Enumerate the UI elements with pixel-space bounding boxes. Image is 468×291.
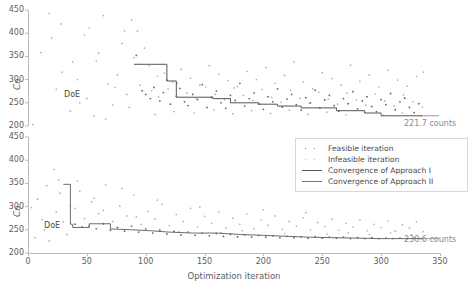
x-tick-label: 250 [312,257,332,266]
legend-marker-approach-ii-line-icon [301,177,323,186]
chart-figure: CD 200250300350400450 DoE 221.7 counts C… [0,0,468,291]
panel1-feasible-points [74,223,422,240]
x-tick-label: 50 [77,257,97,266]
legend-item-approach-i: Convergence of Approach I [301,165,461,176]
legend-label-approach-i: Convergence of Approach I [328,165,431,176]
x-tick-label: 150 [195,257,215,266]
legend-label-feasible: Feasible iteration [328,143,393,154]
x-tick-mark [146,253,147,256]
x-tick-mark [381,253,382,256]
x-axis-line [28,253,440,254]
panel0-convergence-line [134,64,422,116]
x-tick-mark [205,253,206,256]
x-axis-label: Optimization iteration [0,271,468,281]
legend-label-infeasible: Infeasible iteration [328,154,399,165]
panel0-infeasible-points [32,12,425,125]
panel0-plot-area [0,6,468,134]
legend-marker-infeasible-dot-icon [301,155,323,164]
x-tick-label: 100 [136,257,156,266]
x-tick-label: 300 [371,257,391,266]
x-tick-label: 200 [253,257,273,266]
x-tick-label: 0 [18,257,38,266]
chart-panel-approach-i: CD 200250300350400450 DoE 221.7 counts [0,6,468,134]
legend-marker-feasible-dot-icon [301,144,323,153]
x-tick-mark [87,253,88,256]
x-tick-mark [263,253,264,256]
legend-item-feasible: Feasible iteration [301,143,461,154]
x-tick-mark [322,253,323,256]
x-tick-mark [28,253,29,256]
chart-legend: Feasible iteration Infeasible iteration … [295,138,468,192]
legend-label-approach-ii: Convergence of Approach II [328,176,433,187]
legend-item-infeasible: Infeasible iteration [301,154,461,165]
legend-marker-approach-i-line-icon [301,166,323,175]
x-tick-mark [440,253,441,256]
x-tick-label: 350 [430,257,450,266]
legend-item-approach-ii: Convergence of Approach II [301,176,461,187]
